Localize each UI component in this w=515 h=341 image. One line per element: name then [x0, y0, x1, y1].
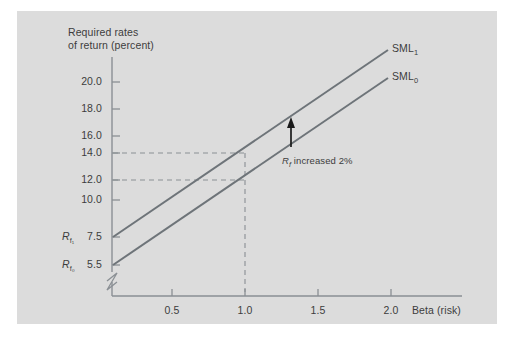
y-tick-label-10: 10.0: [62, 193, 102, 205]
sml0-label-subscript: 0: [414, 76, 418, 85]
y-tick-label-20: 20.0: [62, 75, 102, 87]
x-tick-label-1-5: 1.5: [301, 304, 335, 316]
x-tick-label-1-0: 1.0: [228, 304, 262, 316]
x-tick-label-0-5: 0.5: [155, 304, 189, 316]
rf0-base: R: [62, 258, 70, 270]
sml1-series-label: SML1: [392, 42, 418, 57]
annotation-base: R: [282, 155, 289, 166]
y-axis-title-line1: Required rates: [68, 26, 154, 39]
annotation-rest: increased 2%: [291, 155, 353, 166]
y-tick-label-12: 12.0: [62, 173, 102, 185]
rf1-subscript: f₁: [70, 236, 75, 245]
sml1-line: [113, 50, 388, 237]
y-tick-label-18: 18.0: [62, 102, 102, 114]
x-axis-ticks: [172, 289, 391, 296]
rf-increase-annotation: Rf increased 2%: [282, 155, 353, 169]
sml0-line: [113, 78, 388, 265]
y-axis-title: Required rates of return (percent): [68, 26, 154, 52]
y-axis-ticks: [112, 82, 120, 265]
sml0-label-base: SML: [392, 70, 414, 82]
sml1-label-base: SML: [392, 42, 414, 54]
y-tick-label-14: 14.0: [62, 146, 102, 158]
x-tick-label-2-0: 2.0: [374, 304, 408, 316]
rf1-base: R: [62, 230, 70, 242]
rf0-intercept-label: Rf₀: [62, 258, 75, 273]
sml0-series-label: SML0: [392, 70, 418, 85]
x-axis-title: Beta (risk): [412, 304, 461, 317]
y-tick-label-16: 16.0: [62, 129, 102, 141]
rf1-intercept-label: Rf₁: [62, 230, 74, 245]
figure-container: Required rates of return (percent) 20.0 …: [0, 0, 515, 341]
y-axis-title-line2: of return (percent): [68, 39, 154, 52]
rf0-subscript: f₀: [70, 264, 75, 273]
sml1-label-subscript: 1: [414, 48, 418, 57]
